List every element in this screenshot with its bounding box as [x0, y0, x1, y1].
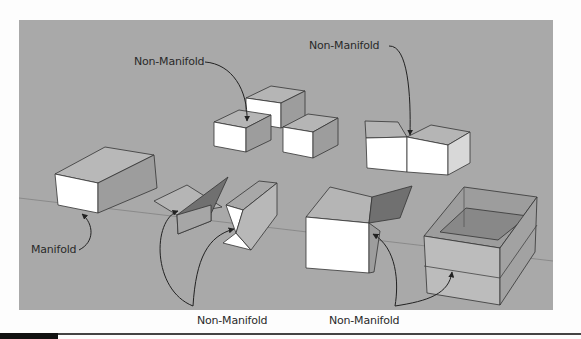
label-non-manifold-bottom-right: Non-Manifold: [329, 314, 399, 327]
label-manifold: Manifold: [31, 243, 76, 256]
bottom-rule: [0, 333, 581, 335]
label-non-manifold-bottom-left: Non-Manifold: [197, 314, 267, 327]
label-non-manifold-stacked: Non-Manifold: [134, 55, 204, 68]
label-non-manifold-pair: Non-Manifold: [309, 39, 379, 52]
bottom-rule-accent: [0, 333, 58, 339]
modeling-viewport: [0, 0, 581, 339]
